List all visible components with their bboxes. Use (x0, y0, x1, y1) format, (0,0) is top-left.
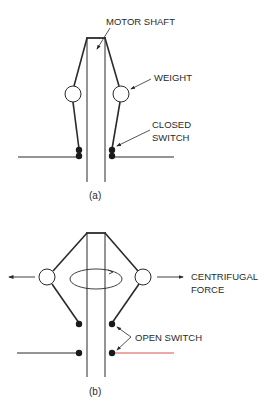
open-switch-leader-lower (117, 337, 131, 350)
rotation-indicator (70, 269, 122, 289)
motor-shaft-a (86, 38, 106, 182)
weight-right-a (113, 86, 129, 102)
weight-left-a (65, 86, 81, 102)
closed-switch-contacts (76, 147, 115, 159)
centrifugal-label-line1: CENTRIFUGAL (191, 271, 258, 282)
closed-switch-label-line2: SWITCH (152, 132, 190, 143)
motor-shaft-label: MOTOR SHAFT (106, 16, 175, 27)
centrifugal-label-line2: FORCE (191, 284, 224, 295)
weight-right-b (135, 269, 151, 285)
motor-shaft-b (86, 233, 106, 377)
closed-switch-leader (117, 130, 150, 146)
centrifugal-switch-diagram: MOTOR SHAFT WEIGHT CLOSED SWITCH (a) (0, 0, 276, 403)
weight-leader (131, 79, 151, 89)
caption-b: (b) (89, 386, 101, 397)
rotation-arrow-icon (108, 270, 113, 274)
arms-b (52, 233, 139, 323)
open-switch-label: OPEN SWITCH (135, 332, 202, 343)
weight-label: WEIGHT (154, 72, 192, 83)
open-switch-leader-upper (117, 327, 131, 337)
closed-switch-label-line1: CLOSED (152, 119, 191, 130)
weight-left-b (39, 269, 55, 285)
caption-a: (a) (89, 190, 101, 201)
panel-a: MOTOR SHAFT WEIGHT CLOSED SWITCH (a) (18, 16, 192, 201)
open-switch-contacts (76, 321, 115, 356)
panel-b: CENTRIFUGAL FORCE OPEN SWITCH (b) (9, 233, 258, 397)
